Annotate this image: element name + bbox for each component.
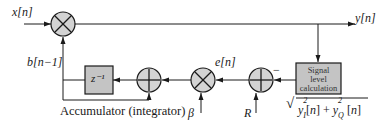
feedback-wire: [63, 37, 85, 80]
beta-label: β: [188, 107, 194, 119]
signal-level-line-3: calculation: [300, 83, 338, 93]
error-label: e[n]: [215, 56, 236, 68]
reference-label: R: [244, 107, 251, 119]
main-multiplier-node: [51, 12, 75, 36]
accumulator-caption: Accumulator (integrator): [60, 105, 185, 118]
formula: y2I[n] + y2Q [n]: [298, 104, 361, 116]
accumulator-adder-node: [137, 68, 161, 92]
input-label: x[n]: [12, 6, 33, 18]
minus-sign: −: [273, 64, 280, 76]
feedback-label: b[n−1]: [27, 56, 62, 68]
output-label: y[n]: [355, 12, 376, 24]
delay-label: z⁻¹: [91, 73, 105, 84]
sqrt-sign: √: [286, 96, 294, 111]
beta-multiplier-node: [191, 68, 215, 92]
reference-adder-node: [249, 68, 273, 92]
